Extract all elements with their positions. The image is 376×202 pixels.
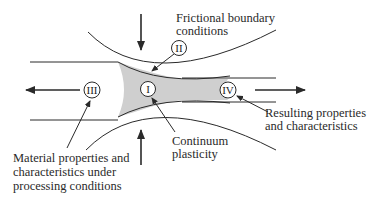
svg-text:III: III [87, 84, 98, 96]
label-material-2: characteristics under [13, 166, 116, 180]
label-resulting-2: and characteristics [265, 120, 358, 134]
svg-text:IV: IV [222, 84, 234, 96]
marker-III: III [84, 82, 100, 98]
marker-IV: IV [220, 82, 236, 98]
svg-text:I: I [146, 83, 150, 95]
svg-text:II: II [175, 42, 183, 54]
leader-material [67, 101, 90, 148]
label-material-3: processing conditions [13, 180, 122, 194]
marker-I: I [141, 82, 156, 97]
label-continuum-2: plasticity [172, 148, 218, 162]
marker-II: II [172, 41, 187, 56]
label-material-1: Material properties and [13, 152, 130, 166]
label-frictional-2: conditions [176, 25, 228, 39]
leader-resulting [237, 96, 268, 112]
